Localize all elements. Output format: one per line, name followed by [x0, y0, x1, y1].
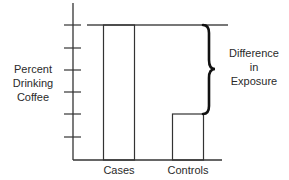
- bar-cases: [104, 25, 135, 160]
- annotation-line: in: [220, 60, 288, 74]
- x-label-controls: Controls: [160, 163, 216, 177]
- x-label-cases: Cases: [96, 163, 142, 177]
- annotation-line: Exposure: [220, 74, 288, 88]
- difference-annotation: Difference in Exposure: [220, 46, 288, 88]
- y-axis-label-line: Drinking: [0, 76, 66, 90]
- bar-controls: [173, 114, 204, 160]
- brace-icon: [203, 25, 215, 114]
- y-axis-label: Percent Drinking Coffee: [0, 62, 66, 104]
- annotation-line: Difference: [220, 46, 288, 60]
- y-axis-label-line: Coffee: [0, 90, 66, 104]
- y-axis-label-line: Percent: [0, 62, 66, 76]
